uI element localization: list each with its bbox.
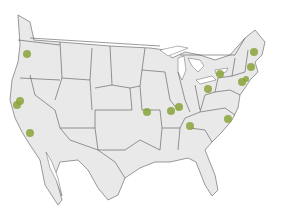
map-marker-kansas-city[interactable] <box>143 108 151 116</box>
map-marker-buffalo[interactable] <box>216 70 224 78</box>
map-marker-st-louis-2[interactable] <box>175 103 183 111</box>
map-marker-portland-me[interactable] <box>250 48 258 56</box>
map-marker-sf-bay-2[interactable] <box>13 101 21 109</box>
map-marker-pittsburgh[interactable] <box>204 85 212 93</box>
map-marker-los-angeles[interactable] <box>26 129 34 137</box>
map-marker-raleigh[interactable] <box>224 115 232 123</box>
map-marker-new-york-2[interactable] <box>243 76 249 82</box>
us-map <box>0 0 283 221</box>
map-marker-boston[interactable] <box>247 63 255 71</box>
map-marker-st-louis-1[interactable] <box>167 107 175 115</box>
map-marker-nashville[interactable] <box>186 122 194 130</box>
map-marker-portland-or[interactable] <box>23 50 31 58</box>
